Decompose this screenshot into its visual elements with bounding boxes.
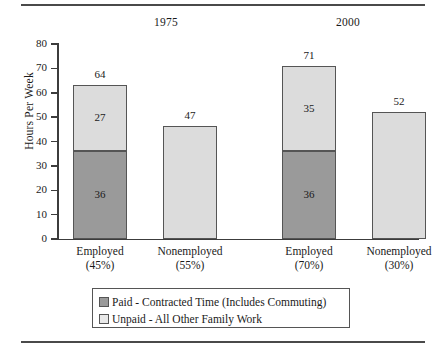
- y-tick-60: [51, 92, 57, 94]
- y-axis-line: [57, 43, 59, 240]
- y-tick-10: [51, 214, 57, 216]
- bar-total-label: 52: [372, 96, 426, 107]
- bar-segment-value-unpaid: 27: [95, 111, 106, 123]
- bar-total-label: 71: [282, 50, 336, 61]
- bar-segment-paid[interactable]: 36: [282, 151, 336, 239]
- y-tick-label-30: 30: [18, 160, 47, 171]
- figure-chart: 1975 2000 Hours Per Week 010203040506070…: [0, 0, 442, 351]
- y-tick-label-40: 40: [18, 136, 47, 147]
- bar-1975-employed[interactable]: 2736: [73, 85, 127, 239]
- bar-segment-unpaid[interactable]: 35: [282, 66, 336, 151]
- y-tick-30: [51, 165, 57, 167]
- x-category-name: Nonemployed: [366, 245, 431, 257]
- legend-item-paid: Paid - Contracted Time (Includes Commuti…: [99, 293, 343, 310]
- y-tick-20: [51, 190, 57, 192]
- legend-swatch-unpaid-icon: [99, 314, 109, 324]
- x-category-name: Employed: [76, 245, 123, 257]
- y-tick-70: [51, 68, 57, 70]
- y-tick-label-0: 0: [18, 233, 47, 244]
- x-category-name: Nonemployed: [157, 245, 222, 257]
- y-tick-50: [51, 116, 57, 118]
- bar-2000-nonemployed[interactable]: [372, 112, 426, 239]
- bar-2000-employed[interactable]: 3536: [282, 66, 336, 239]
- legend-box: Paid - Contracted Time (Includes Commuti…: [92, 288, 350, 328]
- bar-segment-unpaid[interactable]: 27: [73, 85, 127, 151]
- x-category-name: Employed: [285, 245, 332, 257]
- x-category-percent: (70%): [261, 259, 357, 273]
- legend-swatch-paid-icon: [99, 297, 109, 307]
- y-tick-40: [51, 141, 57, 143]
- y-tick-label-50: 50: [18, 111, 47, 122]
- x-category-percent: (45%): [52, 259, 148, 273]
- legend-label-unpaid: Unpaid - All Other Family Work: [112, 313, 262, 325]
- bar-segment-unpaid[interactable]: [163, 126, 217, 239]
- y-tick-label-80: 80: [18, 38, 47, 49]
- bar-segment-paid[interactable]: 36: [73, 151, 127, 239]
- bar-total-label: 64: [73, 69, 127, 80]
- bar-total-label: 47: [163, 110, 217, 121]
- bar-segment-unpaid[interactable]: [372, 112, 426, 239]
- y-tick-0: [51, 238, 57, 240]
- legend-item-unpaid: Unpaid - All Other Family Work: [99, 310, 343, 327]
- x-category-percent: (55%): [142, 259, 238, 273]
- y-tick-label-70: 70: [18, 62, 47, 73]
- bar-segment-value-paid: 36: [95, 188, 106, 200]
- legend-label-paid: Paid - Contracted Time (Includes Commuti…: [112, 296, 326, 308]
- y-tick-label-10: 10: [18, 209, 47, 220]
- x-category-label-1: Nonemployed(55%): [142, 245, 238, 272]
- x-category-label-0: Employed(45%): [52, 245, 148, 272]
- x-category-label-3: Nonemployed(30%): [351, 245, 442, 272]
- x-category-percent: (30%): [351, 259, 442, 273]
- y-tick-label-60: 60: [18, 87, 47, 98]
- bar-1975-nonemployed[interactable]: [163, 126, 217, 239]
- y-tick-80: [51, 43, 57, 45]
- bar-segment-value-paid: 36: [304, 188, 315, 200]
- y-tick-label-20: 20: [18, 184, 47, 195]
- x-category-label-2: Employed(70%): [261, 245, 357, 272]
- bar-segment-value-unpaid: 35: [304, 102, 315, 114]
